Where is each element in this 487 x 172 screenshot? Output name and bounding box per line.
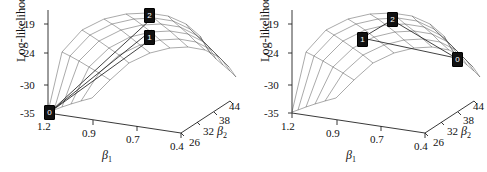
figure-two-panel-loglikelihood-surfaces: Log-likelihood -19 -24 -30 -35 1.2 0.9 0… [0,0,487,172]
iteration-marker-2: 2 [387,12,398,27]
left-panel: Log-likelihood -19 -24 -30 -35 1.2 0.9 0… [0,0,243,172]
right-panel-plot [244,0,487,172]
z-axis-subscript: 2 [223,131,227,140]
y-tick-2: -30 [264,79,279,91]
y-tick-3: -35 [264,107,279,119]
z-tick-3: 44 [473,100,484,112]
y-tick-0: -19 [20,18,35,30]
left-panel-plot [0,0,243,172]
y-tick-3: -35 [20,107,35,119]
z-tick-0: 26 [189,136,200,148]
z-axis-name: β2 [461,124,471,140]
z-tick-3: 44 [229,100,240,112]
x-tick-3: 0.4 [414,140,428,152]
z-tick-0: 26 [433,136,444,148]
z-tick-1: 32 [203,125,214,137]
iteration-marker-1: 1 [144,30,155,45]
x-axis-name: β1 [346,148,356,164]
x-tick-3: 0.4 [170,140,184,152]
x-axis-subscript: 1 [352,155,356,164]
x-tick-1: 0.9 [326,127,340,139]
right-panel: Log-likelihood -19 -24 -30 -35 1.2 0.9 0… [244,0,487,172]
iteration-marker-1: 1 [357,32,368,47]
x-axis-name: β1 [102,148,112,164]
y-tick-1: -24 [20,47,35,59]
z-tick-1: 32 [447,125,458,137]
x-tick-1: 0.9 [82,127,96,139]
iteration-marker-0: 0 [452,52,463,67]
y-tick-0: -19 [264,18,279,30]
y-tick-1: -24 [264,47,279,59]
x-axis-subscript: 1 [108,155,112,164]
x-tick-0: 1.2 [281,120,295,132]
iteration-marker-2: 2 [144,8,155,23]
y-tick-2: -30 [20,79,35,91]
x-tick-2: 0.7 [126,133,140,145]
y-axis-label: Log-likelihood [258,0,274,74]
z-axis-subscript: 2 [467,131,471,140]
z-axis-name: β2 [217,124,227,140]
x-tick-2: 0.7 [370,133,384,145]
y-axis-label: Log-likelihood [14,0,30,74]
iteration-marker-0: 0 [44,105,55,120]
x-tick-0: 1.2 [37,120,51,132]
